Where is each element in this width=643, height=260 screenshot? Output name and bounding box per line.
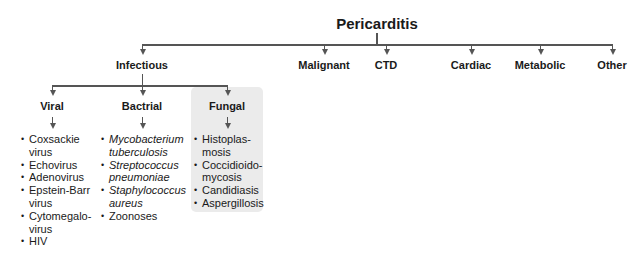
- fungal-list: Histoplas-mosis Coccidioido-mycosis Cand…: [194, 133, 264, 210]
- node-other: Other: [597, 59, 626, 71]
- arrow-down-icon: [469, 49, 475, 55]
- arrow-down-icon: [225, 123, 231, 129]
- node-bacterial: Bactrial: [122, 100, 162, 112]
- list-item: Coccidioido-mycosis: [194, 159, 264, 185]
- list-item: Zoonoses: [101, 210, 186, 223]
- arrow-down-icon: [322, 49, 328, 55]
- arrow-down-icon: [50, 90, 56, 96]
- list-item: HIV: [21, 235, 91, 248]
- list-item: Candidiasis: [194, 184, 264, 197]
- arrow-down-icon: [50, 123, 56, 129]
- list-item: Histoplas-mosis: [194, 133, 264, 159]
- list-item: Staphylococcusaureus: [101, 184, 186, 210]
- arrow-down-icon: [225, 90, 231, 96]
- arrow-down-icon: [610, 49, 616, 55]
- list-item: Aspergillosis: [194, 197, 264, 210]
- node-ctd: CTD: [375, 59, 398, 71]
- infectious-bar: [52, 85, 228, 87]
- root-node-pericarditis: Pericarditis: [336, 15, 418, 32]
- list-item: Cytomegalo-virus: [21, 210, 91, 236]
- node-malignant: Malignant: [298, 59, 349, 71]
- list-item: Adenovirus: [21, 171, 91, 184]
- arrow-down-icon: [140, 49, 146, 55]
- node-cardiac: Cardiac: [451, 59, 491, 71]
- node-infectious: Infectious: [116, 59, 168, 71]
- list-item: Epstein-Barrvirus: [21, 184, 91, 210]
- viral-list: Coxsackievirus Echovirus Adenovirus Epst…: [21, 133, 91, 248]
- list-item: Coxsackievirus: [21, 133, 91, 159]
- arrow-down-icon: [140, 123, 146, 129]
- list-item: Echovirus: [21, 159, 91, 172]
- node-metabolic: Metabolic: [515, 59, 566, 71]
- list-item: Mycobacteriumtuberculosis: [101, 133, 186, 159]
- node-fungal: Fungal: [209, 100, 245, 112]
- list-item: Streptococcuspneumoniae: [101, 159, 186, 185]
- node-viral: Viral: [40, 100, 64, 112]
- arrow-down-icon: [538, 49, 544, 55]
- bacterial-list: Mycobacteriumtuberculosis Streptococcusp…: [101, 133, 186, 223]
- level1-bar: [142, 44, 613, 46]
- arrow-down-icon: [384, 49, 390, 55]
- arrow-down-icon: [140, 90, 146, 96]
